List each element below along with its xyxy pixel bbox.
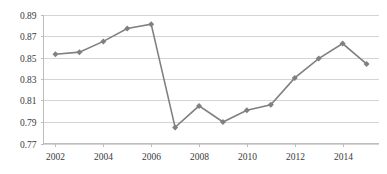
x-tick-label-3: 2008 [190, 152, 209, 162]
y-tick-label-0: 0.77 [20, 140, 37, 150]
x-tick-label-4: 2010 [238, 152, 257, 162]
y-tick-label-4: 0.85 [20, 54, 37, 64]
x-tick-label-6: 2014 [334, 152, 353, 162]
x-tick-label-1: 2004 [94, 152, 113, 162]
y-tick-label-5: 0.87 [20, 32, 37, 42]
x-tick-label-2: 2006 [142, 152, 161, 162]
y-tick-label-6: 0.89 [20, 11, 37, 21]
y-tick-label-2: 0.81 [20, 96, 37, 106]
x-tick-label-0: 2002 [46, 152, 65, 162]
y-tick-label-1: 0.79 [20, 118, 37, 128]
y-tick-label-3: 0.83 [20, 75, 37, 85]
x-tick-label-5: 2012 [286, 152, 305, 162]
line-chart: 0.770.790.810.830.850.870.89 20022004200… [0, 0, 387, 174]
chart-canvas: 0.770.790.810.830.850.870.89 20022004200… [0, 0, 387, 174]
chart-background [0, 0, 387, 174]
